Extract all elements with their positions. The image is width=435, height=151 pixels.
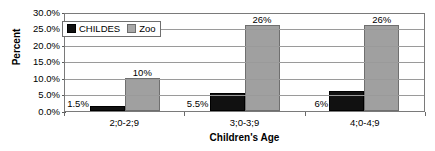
y-axis-ticks: 0.0%5.0%10.0%15.0%20.0%25.0%30.0% — [16, 8, 64, 112]
gridline — [65, 79, 424, 80]
y-axis-tick-label: 30.0% — [33, 8, 60, 18]
bar-value-label: 1.5% — [67, 98, 89, 109]
black-square-marker-icon — [67, 24, 76, 33]
bar-childes[interactable]: 6% — [329, 91, 364, 111]
bar-value-label: 10% — [133, 67, 152, 78]
x-axis-category-label: 4;0-4;9 — [305, 116, 425, 130]
y-axis-tick-label: 15.0% — [33, 58, 60, 68]
y-axis-tick-label: 20.0% — [33, 41, 60, 51]
x-axis-category-label: 2;0-2;9 — [64, 116, 184, 130]
gray-square-marker-icon — [127, 24, 136, 33]
bar-value-label: 5.5% — [187, 98, 209, 109]
legend-label-zoo: Zoo — [139, 23, 155, 34]
gridline — [65, 62, 424, 63]
x-axis-labels: 2;0-2;93;0-3;94;0-4;9 — [64, 116, 425, 130]
legend-label-childes: CHILDES — [79, 23, 120, 34]
bar-value-label: 26% — [252, 14, 271, 25]
x-axis-category-label: 3;0-3;9 — [184, 116, 304, 130]
bar-chart: Percent 0.0%5.0%10.0%15.0%20.0%25.0%30.0… — [0, 0, 435, 151]
bar-childes[interactable]: 1.5% — [90, 106, 125, 111]
x-axis-tickmark — [425, 112, 426, 116]
legend-item-childes: CHILDES — [67, 23, 120, 34]
y-axis-tick-label: 10.0% — [33, 74, 60, 84]
y-axis-tick-label: 5.0% — [38, 91, 60, 101]
y-axis-tick-label: 25.0% — [33, 24, 60, 34]
gridline — [65, 95, 424, 96]
x-axis-title: Children's Age — [64, 131, 425, 144]
chart-legend: CHILDES Zoo — [62, 21, 161, 37]
bar-value-label: 6% — [314, 98, 328, 109]
bar-zoo[interactable]: 26% — [245, 25, 280, 111]
y-axis-tick-label: 0.0% — [38, 107, 60, 117]
legend-item-zoo: Zoo — [127, 23, 155, 34]
gridline — [65, 46, 424, 47]
bar-zoo[interactable]: 26% — [364, 25, 399, 111]
bar-value-label: 26% — [372, 14, 391, 25]
